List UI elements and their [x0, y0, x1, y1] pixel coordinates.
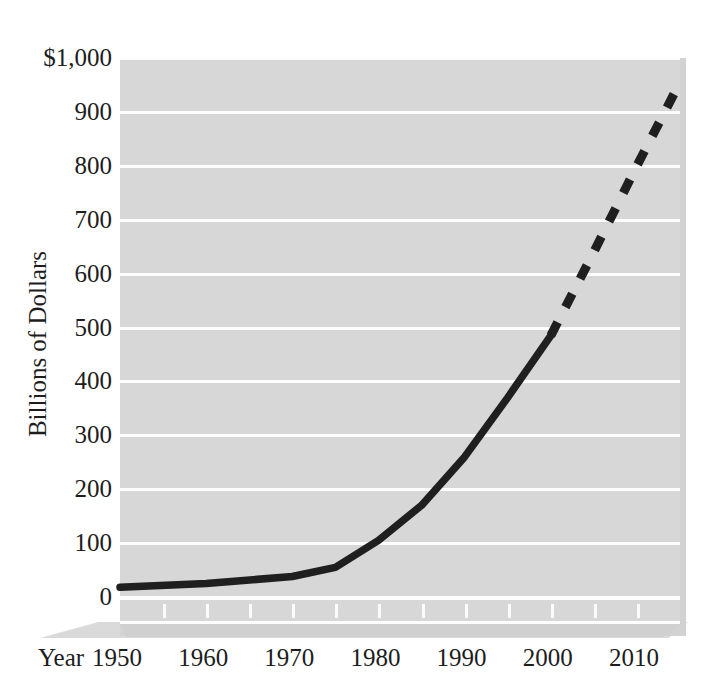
x-axis-minor-tick — [206, 604, 209, 618]
x-axis-minor-tick — [163, 604, 166, 618]
y-axis-title: Billions of Dollars — [24, 214, 52, 474]
x-tick-label: 1960 — [178, 645, 228, 670]
x-tick-label: 2010 — [609, 645, 659, 670]
y-tick-label: $1,000 — [6, 45, 112, 70]
x-axis-minor-tick — [292, 604, 295, 618]
y-tick-label: 600 — [6, 261, 112, 286]
y-tick-label: 100 — [6, 530, 112, 555]
y-tick-label: 400 — [6, 368, 112, 393]
gridline — [120, 57, 680, 60]
x-axis-minor-tick — [551, 604, 554, 618]
x-tick-label: 1980 — [350, 645, 400, 670]
gridline — [120, 434, 680, 437]
gridline — [120, 542, 680, 545]
x-axis-minor-tick — [249, 604, 252, 618]
y-axis-tick-labels: $1,0009008007006005004003002001000 — [0, 0, 112, 689]
x-tick-label: 1990 — [437, 645, 487, 670]
x-axis-minor-tick — [422, 604, 425, 618]
x-axis-minor-tick — [594, 604, 597, 618]
x-tick-label: 2000 — [523, 645, 573, 670]
x-axis-minor-tick — [335, 604, 338, 618]
x-axis-minor-tick — [465, 604, 468, 618]
y-tick-label: 900 — [6, 99, 112, 124]
x-tick-label: 1950 — [92, 645, 142, 670]
x-axis-minor-tick — [637, 604, 640, 618]
y-tick-label: 200 — [6, 476, 112, 501]
y-tick-label: 800 — [6, 153, 112, 178]
gridline — [120, 488, 680, 491]
plot-area — [120, 58, 680, 597]
panel-bevel — [120, 623, 686, 637]
gridline — [120, 219, 680, 222]
chart-figure: $1,0009008007006005004003002001000 Billi… — [0, 0, 713, 689]
x-axis-tick-strip — [120, 600, 680, 622]
x-axis-minor-tick — [508, 604, 511, 618]
gridline — [120, 327, 680, 330]
gridline — [120, 111, 680, 114]
gridline — [120, 380, 680, 383]
x-tick-label: 1970 — [264, 645, 314, 670]
x-axis-minor-tick — [378, 604, 381, 618]
y-tick-label: 300 — [6, 422, 112, 447]
y-tick-label: 700 — [6, 207, 112, 232]
y-tick-label: 500 — [6, 315, 112, 340]
x-axis-tick-labels: 1950196019701980199020002010 — [0, 645, 713, 685]
axis-bottom-rule — [120, 621, 680, 624]
x-axis-title: Year — [38, 645, 84, 670]
y-tick-label: 0 — [6, 584, 112, 609]
gridline — [120, 165, 680, 168]
gridline — [120, 273, 680, 276]
